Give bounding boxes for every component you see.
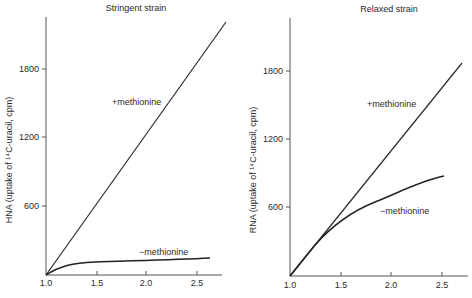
plus-methionine-label: +methionine bbox=[367, 99, 416, 109]
y-tick-label: 1200 bbox=[19, 132, 39, 142]
y-axis-label: HNA (uptake of ¹⁴C-uracil, cpm) bbox=[4, 97, 14, 223]
chart-title: Stringent strain bbox=[106, 3, 167, 13]
minus-methionine-label: −methionine bbox=[380, 206, 429, 216]
minus-methionine-curve bbox=[46, 258, 210, 275]
y-tick-label: 600 bbox=[268, 202, 283, 212]
y-tick-label: 600 bbox=[24, 201, 39, 211]
x-tick-label: 2.5 bbox=[436, 280, 449, 290]
x-tick-label: 1.0 bbox=[284, 280, 297, 290]
chart-title: Relaxed strain bbox=[360, 4, 418, 14]
figure: Stringent strain 1800 1200 600 1.0 1.5 2… bbox=[0, 0, 472, 298]
plus-methionine-label: +methionine bbox=[112, 97, 161, 107]
y-axis-label: RNA (uptake of ¹⁴C-uracil, cpm) bbox=[248, 107, 258, 233]
x-tick-label: 1.0 bbox=[40, 278, 53, 288]
x-tick-label: 1.5 bbox=[91, 278, 104, 288]
y-tick-label: 1200 bbox=[263, 134, 283, 144]
y-tick-label: 1800 bbox=[263, 66, 283, 76]
plus-methionine-line bbox=[46, 22, 226, 275]
y-tick-label: 1800 bbox=[19, 64, 39, 74]
x-tick-label: 1.5 bbox=[335, 280, 348, 290]
minus-methionine-curve bbox=[290, 176, 444, 276]
stringent-strain-chart: Stringent strain 1800 1200 600 1.0 1.5 2… bbox=[4, 3, 226, 288]
minus-methionine-label: −methionine bbox=[139, 247, 188, 257]
x-tick-label: 2.0 bbox=[385, 280, 398, 290]
relaxed-strain-chart: Relaxed strain 1800 1200 600 1.0 1.5 2.0… bbox=[248, 4, 468, 290]
x-tick-label: 2.0 bbox=[140, 278, 153, 288]
x-tick-label: 2.5 bbox=[191, 278, 204, 288]
